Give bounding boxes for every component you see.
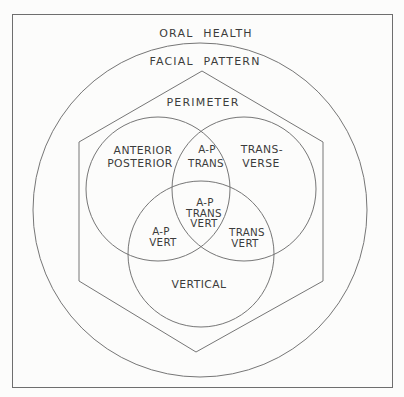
anterior-posterior-label-line2: POSTERIOR [107,157,173,170]
transverse-label-line2: VERSE [242,157,279,170]
vertical-label: VERTICAL [172,278,227,291]
anterior-posterior-label-line1: ANTERIOR [114,144,173,157]
transverse-label-line1: TRANS- [240,143,283,156]
ap-trans-label-line2: TRANS [187,157,224,169]
oral-health-label: ORAL HEALTH [159,27,253,40]
ap-vert-label-line2: VERT [149,236,177,248]
perimeter-label: PERIMETER [166,96,239,109]
ap-trans-vert-label-line3: VERT [190,217,218,229]
diagram-canvas: ORAL HEALTH FACIAL PATTERN PERIMETER ANT… [0,0,404,397]
ap-trans-label-line1: A-P [198,143,216,155]
nested-venn-diagram: ORAL HEALTH FACIAL PATTERN PERIMETER ANT… [0,0,404,397]
facial-pattern-label: FACIAL PATTERN [149,55,260,68]
trans-vert-label-line2: VERT [231,237,259,249]
